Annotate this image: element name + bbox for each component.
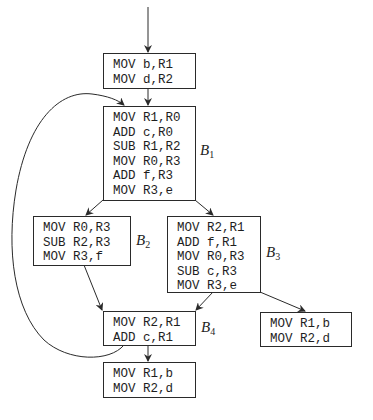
label-subscript: 1 (209, 149, 214, 160)
block-b1: MOV R1,R0 ADD c,R0 SUB R1,R2 MOV R0,R3 A… (103, 106, 196, 201)
instruction: MOV R2,d (113, 382, 195, 397)
instruction: MOV R1,R0 (113, 111, 195, 126)
block-b2: MOV R0,R3 SUB R2,R3 MOV R3,f (33, 216, 131, 266)
edge-b2-b4 (84, 265, 102, 310)
instruction: ADD f,R3 (113, 169, 195, 184)
block-label-b4: B4 (201, 319, 215, 337)
instruction: MOV R2,R1 (177, 221, 260, 236)
exit-block-b3: MOV R1,b MOV R2,d (260, 312, 352, 347)
instruction: MOV R3,e (113, 184, 195, 199)
instruction: ADD c,R0 (113, 126, 195, 141)
instruction: MOV b,R1 (113, 58, 195, 73)
instruction: MOV R3,f (43, 250, 130, 265)
instruction: SUB R1,R2 (113, 140, 195, 155)
edge-b1-b3 (195, 200, 213, 215)
label-subscript: 4 (210, 326, 215, 337)
block-label-b1: B1 (200, 142, 214, 160)
instruction: SUB c,R3 (177, 265, 260, 280)
instruction: MOV R1,b (270, 317, 351, 332)
instruction: MOV R3,e (177, 279, 260, 294)
control-flow-diagram: MOV b,R1 MOV d,R2 MOV R1,R0 ADD c,R0 SUB… (0, 0, 373, 420)
label-letter: B (201, 319, 210, 335)
instruction: MOV d,R2 (113, 73, 195, 88)
instruction: MOV R2,d (270, 332, 351, 347)
instruction: ADD c,R1 (113, 331, 195, 346)
label-subscript: 3 (275, 251, 280, 262)
instruction: MOV R0,R3 (177, 250, 260, 265)
block-b4: MOV R2,R1 ADD c,R1 (103, 311, 196, 346)
block-label-b3: B3 (266, 244, 280, 262)
instruction: MOV R2,R1 (113, 316, 195, 331)
block-label-b2: B2 (136, 232, 150, 250)
instruction: MOV R0,R3 (113, 155, 195, 170)
instruction: MOV R0,R3 (43, 221, 130, 236)
label-subscript: 2 (145, 239, 150, 250)
entry-block: MOV b,R1 MOV d,R2 (103, 53, 196, 89)
edge-b3-exit (260, 292, 305, 311)
label-letter: B (200, 142, 209, 158)
label-letter: B (266, 244, 275, 260)
instruction: SUB R2,R3 (43, 236, 130, 251)
block-b3: MOV R2,R1 ADD f,R1 MOV R0,R3 SUB c,R3 MO… (167, 216, 261, 293)
instruction: ADD f,R1 (177, 236, 260, 251)
edge-b3-b4 (196, 292, 213, 310)
edge-b1-b2 (86, 200, 103, 215)
label-letter: B (136, 232, 145, 248)
exit-block-b4: MOV R1,b MOV R2,d (103, 362, 196, 398)
instruction: MOV R1,b (113, 367, 195, 382)
